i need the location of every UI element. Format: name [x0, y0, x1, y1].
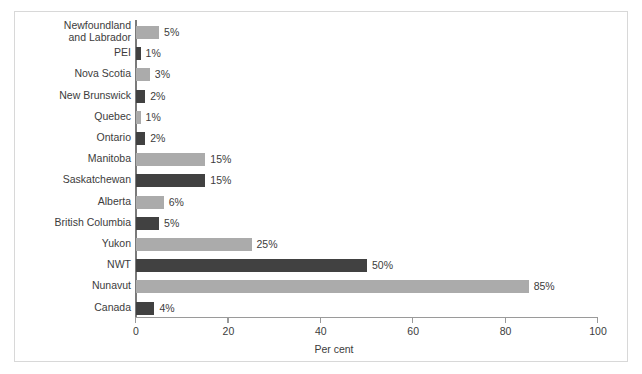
bar-value-label: 6% [169, 196, 184, 208]
x-tick-label: 100 [589, 325, 607, 337]
x-tick-label: 20 [223, 325, 235, 337]
chart-figure: Newfoundland and Labrador5%PEI1%Nova Sco… [0, 0, 642, 374]
bar-value-label: 2% [150, 90, 165, 102]
x-tick [135, 317, 136, 323]
bar-value-label: 3% [155, 68, 170, 80]
bar [136, 153, 205, 166]
category-label: New Brunswick [0, 90, 131, 102]
bar-row: Manitoba15% [0, 149, 642, 170]
bar [136, 132, 145, 145]
x-tick-label: 80 [500, 325, 512, 337]
bar-value-label: 50% [372, 259, 393, 271]
category-label: PEI [0, 47, 131, 59]
bar-value-label: 2% [150, 132, 165, 144]
bar [136, 47, 141, 60]
bar-value-label: 15% [210, 153, 231, 165]
bar-row: Alberta6% [0, 192, 642, 213]
category-label: Quebec [0, 111, 131, 123]
x-tick-label: 0 [133, 325, 139, 337]
bar-row: Yukon25% [0, 234, 642, 255]
category-label: Ontario [0, 132, 131, 144]
bar-value-label: 1% [146, 47, 161, 59]
bar-row: Nunavut85% [0, 276, 642, 297]
category-label: Nova Scotia [0, 68, 131, 80]
category-label: Newfoundland and Labrador [0, 20, 131, 43]
bar [136, 26, 159, 39]
bar [136, 174, 205, 187]
category-label: British Columbia [0, 217, 131, 229]
bar [136, 68, 150, 81]
bar [136, 111, 141, 124]
bar [136, 238, 252, 251]
bar-row: Ontario2% [0, 128, 642, 149]
bar [136, 280, 529, 293]
plot-area: Newfoundland and Labrador5%PEI1%Nova Sco… [0, 0, 642, 374]
bar-row: NWT50% [0, 255, 642, 276]
x-tick [320, 317, 321, 323]
bar-row: Canada4% [0, 298, 642, 319]
bar-value-label: 25% [257, 238, 278, 250]
bar [136, 90, 145, 103]
bar-value-label: 85% [534, 280, 555, 292]
bar-value-label: 4% [159, 302, 174, 314]
x-tick [505, 317, 506, 323]
bar [136, 217, 159, 230]
category-label: Manitoba [0, 153, 131, 165]
x-tick [412, 317, 413, 323]
bar-row: Saskatchewan15% [0, 170, 642, 191]
category-label: Saskatchewan [0, 174, 131, 186]
bar-value-label: 5% [164, 217, 179, 229]
category-label: NWT [0, 259, 131, 271]
bar-value-label: 5% [164, 26, 179, 38]
x-axis-title-label: Per cent [314, 343, 353, 355]
x-tick-label: 40 [315, 325, 327, 337]
bar [136, 302, 154, 315]
bar-value-label: 1% [146, 111, 161, 123]
category-label: Canada [0, 302, 131, 314]
x-tick-label: 60 [407, 325, 419, 337]
bar-row: British Columbia5% [0, 213, 642, 234]
bar-row: Quebec1% [0, 107, 642, 128]
bar-row: New Brunswick2% [0, 86, 642, 107]
category-label: Alberta [0, 196, 131, 208]
category-label: Yukon [0, 238, 131, 250]
bar-row: Nova Scotia3% [0, 64, 642, 85]
x-tick [597, 317, 598, 323]
category-label: Nunavut [0, 280, 131, 292]
bar-row: Newfoundland and Labrador5% [0, 22, 642, 43]
bar [136, 196, 164, 209]
bar-row: PEI1% [0, 43, 642, 64]
bar [136, 259, 367, 272]
x-tick [227, 317, 228, 323]
x-axis-title: Per cent [0, 343, 642, 355]
bar-value-label: 15% [210, 174, 231, 186]
